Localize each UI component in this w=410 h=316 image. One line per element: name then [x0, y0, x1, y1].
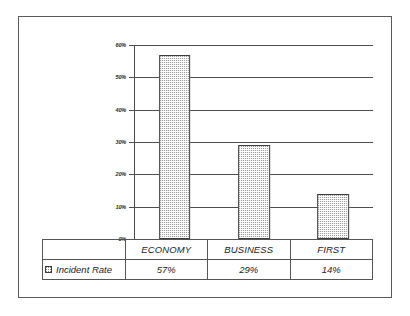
category-header-cell: ECONOMY	[125, 240, 208, 260]
y-axis-tick-mark	[129, 45, 134, 46]
bar-slot	[214, 45, 293, 239]
bar-slot	[135, 45, 214, 239]
value-cell: 14%	[290, 260, 373, 280]
y-axis-tick-label: 60%	[116, 42, 126, 48]
category-header-cell: FIRST	[290, 240, 373, 260]
bar	[159, 55, 191, 239]
category-header-cell: BUSINESS	[208, 240, 291, 260]
y-axis-tick-mark	[129, 77, 134, 78]
plot-area: 0%10%20%30%40%50%60%	[134, 45, 373, 239]
series-label: Incident Rate	[56, 264, 112, 275]
bar	[317, 194, 349, 239]
legend-swatch-icon	[45, 266, 52, 273]
series-legend-cell: Incident Rate	[43, 260, 126, 280]
y-axis-tick-label: 40%	[116, 107, 126, 113]
y-axis-tick-label: 10%	[116, 204, 126, 210]
y-axis-tick-mark	[129, 110, 134, 111]
y-axis-tick-mark	[129, 142, 134, 143]
value-cell: 29%	[208, 260, 291, 280]
y-axis-tick-mark	[129, 207, 134, 208]
y-axis-tick-label: 20%	[116, 171, 126, 177]
figure-frame: 0%10%20%30%40%50%60% ECONOMY BUSINESS FI…	[18, 16, 392, 298]
y-axis-tick-label: 50%	[116, 74, 126, 80]
value-cell: 57%	[125, 260, 208, 280]
y-axis-tick-mark	[129, 174, 134, 175]
bars-layer	[135, 45, 373, 239]
table-corner-cell	[43, 240, 126, 260]
bar-slot	[294, 45, 373, 239]
y-axis-tick-label: 30%	[116, 139, 126, 145]
bar	[238, 145, 270, 239]
table-row: Incident Rate 57% 29% 14%	[43, 260, 373, 280]
data-table: ECONOMY BUSINESS FIRST Incident Rate 57%…	[42, 239, 373, 280]
table-header-row: ECONOMY BUSINESS FIRST	[43, 240, 373, 260]
